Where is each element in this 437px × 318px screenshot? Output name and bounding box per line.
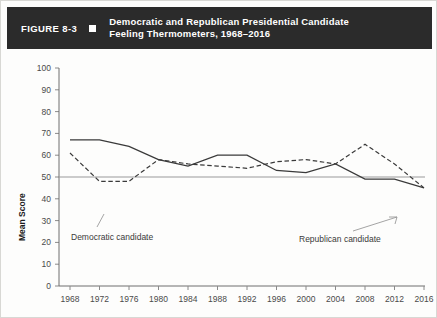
y-tick-label: 60 bbox=[42, 150, 52, 160]
democratic-leader-line bbox=[97, 214, 104, 227]
x-tick-label: 2016 bbox=[415, 294, 434, 304]
y-tick-label: 80 bbox=[42, 107, 52, 117]
chart-plot-area: Mean Score 0102030405060708090100 196819… bbox=[1, 51, 437, 318]
figure-title-line-2: Feeling Thermometers, 1968–2016 bbox=[109, 28, 349, 41]
y-tick-label: 70 bbox=[42, 128, 52, 138]
x-tick-label: 1988 bbox=[208, 294, 227, 304]
x-tick-label: 1984 bbox=[179, 294, 198, 304]
y-tick-label: 10 bbox=[42, 259, 52, 269]
figure-title-line-1: Democratic and Republican Presidential C… bbox=[109, 16, 349, 29]
x-tick-label: 1972 bbox=[90, 294, 109, 304]
series-republican-candidate bbox=[70, 144, 424, 188]
y-axis-ticks: 0102030405060708090100 bbox=[37, 63, 59, 291]
x-tick-label: 2000 bbox=[297, 294, 316, 304]
square-bullet-icon bbox=[89, 25, 96, 32]
figure-title: Democratic and Republican Presidential C… bbox=[109, 16, 349, 41]
x-tick-label: 1980 bbox=[149, 294, 168, 304]
x-tick-label: 2004 bbox=[326, 294, 345, 304]
figure-header-banner: FIGURE 8-3 Democratic and Republican Pre… bbox=[7, 7, 432, 49]
x-axis-ticks: 1968197219761980198419881992199620002004… bbox=[61, 286, 434, 304]
y-tick-label: 50 bbox=[42, 172, 52, 182]
y-tick-label: 90 bbox=[42, 85, 52, 95]
republican-annotation-label: Republican candidate bbox=[299, 234, 381, 244]
x-tick-label: 2012 bbox=[385, 294, 404, 304]
series-democratic-candidate bbox=[70, 140, 424, 188]
x-tick-label: 1968 bbox=[61, 294, 80, 304]
x-tick-label: 1992 bbox=[238, 294, 257, 304]
republican-leader-line bbox=[353, 217, 397, 231]
y-tick-label: 20 bbox=[42, 237, 52, 247]
y-tick-label: 40 bbox=[42, 194, 52, 204]
y-axis-title: Mean Score bbox=[17, 193, 27, 241]
y-tick-label: 0 bbox=[46, 281, 51, 291]
line-chart-svg: Mean Score 0102030405060708090100 196819… bbox=[1, 51, 437, 318]
y-tick-label: 30 bbox=[42, 216, 52, 226]
x-tick-label: 1996 bbox=[267, 294, 286, 304]
figure-number: FIGURE 8-3 bbox=[21, 23, 77, 34]
democratic-annotation-label: Democratic candidate bbox=[71, 232, 153, 242]
y-tick-label: 100 bbox=[37, 63, 51, 73]
x-tick-label: 1976 bbox=[120, 294, 139, 304]
figure-container: FIGURE 8-3 Democratic and Republican Pre… bbox=[0, 0, 437, 318]
x-tick-label: 2008 bbox=[356, 294, 375, 304]
